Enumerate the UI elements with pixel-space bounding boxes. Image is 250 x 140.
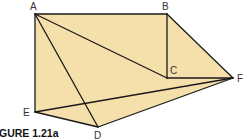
- vertex-label-B: B: [162, 1, 169, 12]
- vertex-label-C: C: [170, 65, 177, 76]
- vertex-label-A: A: [30, 1, 37, 12]
- vertex-label-E: E: [23, 107, 30, 118]
- figure-caption: GURE 1.21a: [0, 127, 59, 139]
- vertex-label-D: D: [94, 130, 101, 140]
- vertex-label-F: F: [237, 73, 243, 84]
- figure-fill: [35, 14, 233, 127]
- geometry-figure: A B C F E D GURE 1.21a: [0, 0, 250, 140]
